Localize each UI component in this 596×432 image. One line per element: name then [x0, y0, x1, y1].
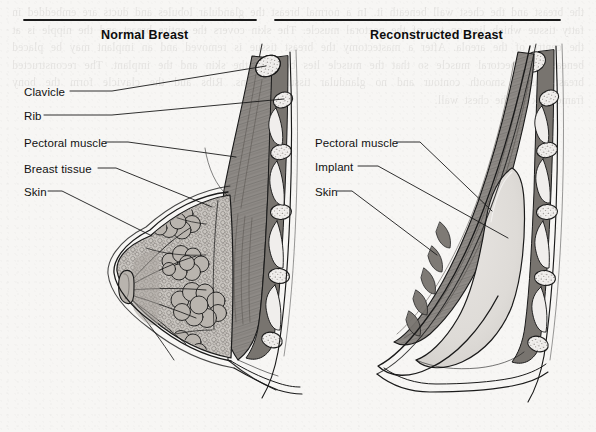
label-normal-rib: Rib — [24, 110, 42, 122]
label-normal-pectoral-muscle: Pectoral muscle — [24, 137, 107, 149]
label-reconstructed-pectoral-muscle: Pectoral muscle — [315, 137, 398, 149]
diagram-page: the breast and the chest wall beneath it… — [0, 0, 596, 432]
panel-title-normal: Normal Breast — [101, 28, 188, 42]
leader-line-normal-skin — [48, 191, 152, 236]
reconstructed-breast-figure — [377, 44, 564, 402]
normal-breast-figure — [108, 44, 302, 398]
leader-line-reconstructed-skin — [337, 191, 437, 255]
anatomy-illustration — [0, 0, 596, 432]
label-reconstructed-skin: Skin — [315, 186, 338, 198]
label-reconstructed-implant: Implant — [315, 161, 353, 173]
panel-title-reconstructed: Reconstructed Breast — [370, 28, 503, 42]
leader-line-normal-clavicle — [70, 66, 266, 91]
leader-line-reconstructed-pectoral-muscle — [397, 142, 492, 211]
label-normal-breast-tissue: Breast tissue — [24, 163, 92, 175]
areola — [131, 251, 159, 325]
leader-line-normal-pectoral-muscle — [106, 142, 236, 157]
label-normal-clavicle: Clavicle — [24, 86, 65, 98]
label-normal-skin: Skin — [24, 186, 47, 198]
